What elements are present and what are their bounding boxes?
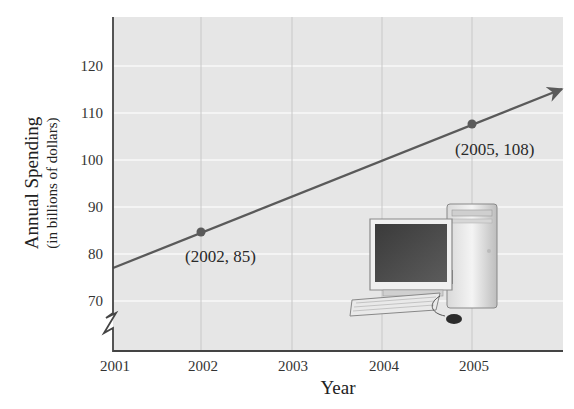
point-label-2002: (2002, 85): [185, 247, 256, 266]
desktop-computer-illustration: [350, 204, 497, 324]
y-axis-subtitle: (in billions of dollars): [44, 117, 61, 248]
x-tick-2001: 2001: [100, 358, 130, 374]
point-label-2005: (2005, 108): [455, 140, 534, 159]
y-axis-title: Annual Spending: [21, 116, 42, 249]
x-tick-2003: 2003: [278, 358, 308, 374]
x-axis-title: Year: [320, 377, 356, 398]
y-tick-labels: 120 110 100 90 80 70: [81, 58, 104, 309]
y-tick-70: 70: [88, 293, 103, 309]
data-point-2002: [197, 228, 206, 237]
data-point-2005: [468, 120, 477, 129]
x-tick-2005: 2005: [459, 358, 489, 374]
y-tick-100: 100: [81, 152, 104, 168]
y-tick-80: 80: [88, 246, 103, 262]
y-tick-90: 90: [88, 199, 103, 215]
x-tick-2002: 2002: [188, 358, 218, 374]
x-tick-labels: 2001 2002 2003 2004 2005: [100, 358, 489, 374]
y-tick-120: 120: [81, 58, 104, 74]
x-tick-2004: 2004: [369, 358, 400, 374]
y-tick-110: 110: [81, 105, 103, 121]
line-chart: (2002, 85) (2005, 108) 120 110 100 90 80…: [0, 0, 574, 409]
